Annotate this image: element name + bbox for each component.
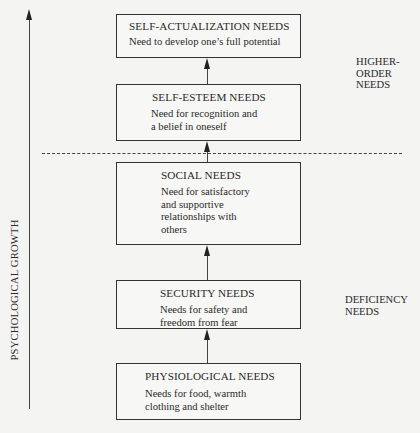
- connector-arrowhead-icon: [204, 329, 210, 340]
- connector-arrowhead-icon: [204, 141, 210, 152]
- level-description: Need for satisfactory and supportive rel…: [161, 186, 300, 236]
- higher-order-needs-label: HIGHER- ORDER NEEDS: [356, 56, 400, 91]
- level-title: SELF-ACTUALIZATION NEEDS: [129, 20, 300, 32]
- growth-axis-label: PSYCHOLOGICAL GROWTH: [9, 219, 20, 360]
- level-self-esteem: SELF-ESTEEM NEEDS Need for recognition a…: [116, 84, 301, 141]
- level-description: Need to develop one’s full potential: [129, 36, 300, 49]
- level-security: SECURITY NEEDS Needs for safety and free…: [116, 280, 301, 329]
- level-description: Needs for safety and freedom from fear: [160, 304, 300, 329]
- level-self-actualization: SELF-ACTUALIZATION NEEDS Need to develop…: [116, 14, 301, 58]
- level-title: SOCIAL NEEDS: [161, 169, 300, 181]
- connector-arrowhead-icon: [204, 245, 210, 256]
- level-social: SOCIAL NEEDS Need for satisfactory and s…: [116, 162, 301, 245]
- growth-axis-arrowhead-icon: [26, 9, 32, 20]
- level-physiological: PHYSIOLOGICAL NEEDS Needs for food, warm…: [116, 363, 301, 420]
- level-title: SECURITY NEEDS: [160, 287, 300, 299]
- needs-divider: [42, 153, 402, 154]
- connector-arrowhead-icon: [204, 58, 210, 69]
- level-title: PHYSIOLOGICAL NEEDS: [145, 370, 300, 382]
- level-title: SELF-ESTEEM NEEDS: [151, 91, 300, 103]
- level-description: Need for recognition and a belief in one…: [151, 108, 300, 133]
- level-description: Needs for food, warmth clothing and shel…: [145, 388, 300, 413]
- growth-axis-line: [29, 20, 30, 409]
- deficiency-needs-label: DEFICIENCY NEEDS: [345, 294, 408, 317]
